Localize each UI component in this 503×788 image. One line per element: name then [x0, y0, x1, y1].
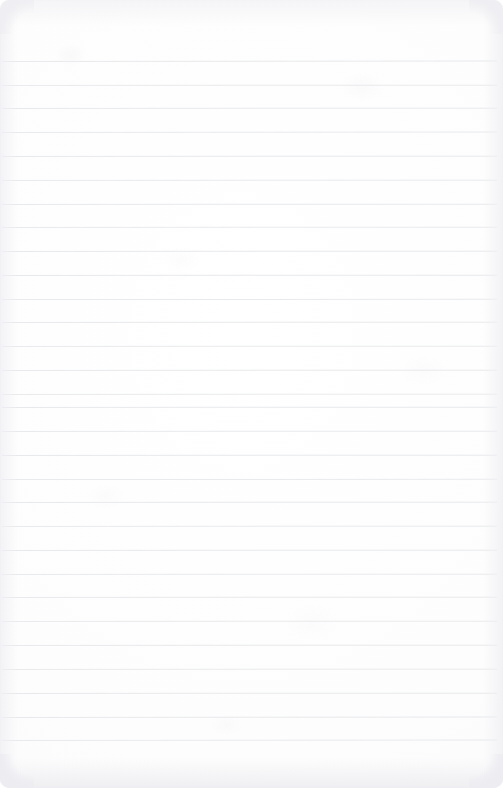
paper-sheet — [0, 0, 503, 788]
writing-area[interactable] — [0, 0, 503, 788]
notebook-page-screenshot — [0, 0, 503, 788]
